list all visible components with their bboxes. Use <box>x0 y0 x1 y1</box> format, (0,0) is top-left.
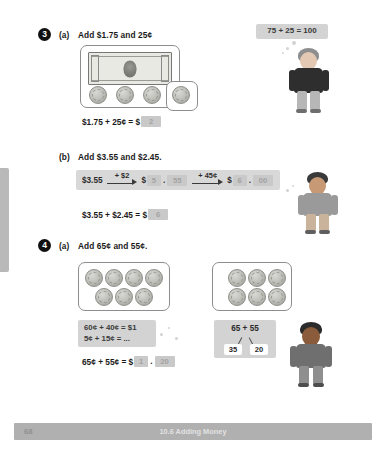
chain-step1-label: + $2 <box>115 171 130 180</box>
equation-4a-lhs: 65¢ + 55¢ = $ <box>82 357 133 367</box>
coin-left-5 <box>95 288 113 306</box>
hint-box-4a: 60¢ + 40¢ = $1 5¢ + 15¢ = ... <box>78 320 156 347</box>
footer-section-title: 10.6 Adding Money <box>14 423 372 440</box>
chain-start-value: $3.55 <box>82 176 103 185</box>
character-student-1 <box>286 48 332 114</box>
question-3a-prompt: Add $1.75 and 25¢ <box>78 30 152 40</box>
equation-3b-lhs: $3.55 + $2.45 = $ <box>82 210 147 220</box>
one-dollar-bill <box>88 52 172 85</box>
chain-mid-currency: $ <box>141 176 146 185</box>
part-label-4a: (a) <box>59 241 69 251</box>
coin-left-7 <box>135 288 153 306</box>
chain-end-currency: $ <box>227 176 232 185</box>
question-4a-equation: 65¢ + 55¢ = $ 1 . 20 <box>82 356 176 367</box>
answer-4a-separator: . <box>150 357 152 366</box>
question-3a-equation: $1.75 + 25¢ = $ 2 <box>82 116 162 127</box>
coin-quarter <box>89 86 107 104</box>
question-number-4: 4 <box>38 239 51 252</box>
hint-line-1: 60¢ + 40¢ = $1 <box>84 323 136 334</box>
character-student-3 <box>288 322 334 388</box>
coin-quarter-extra <box>172 86 190 104</box>
number-bond-part-left: 35 <box>224 344 242 355</box>
character-student-2 <box>296 172 340 234</box>
number-bond-4a: 65 + 55 35 20 <box>214 320 276 358</box>
coin-right-3 <box>268 269 286 287</box>
coin-right-2 <box>248 269 266 287</box>
worksheet-page: 3 (a) Add $1.75 and 25¢ $1.75 + 25¢ = $ … <box>0 0 386 458</box>
chain-arrow-1: + $2 <box>106 172 139 188</box>
answer-blank-4a-dollars[interactable]: 1 <box>134 356 148 367</box>
hint-box-4a-sparkles <box>160 325 186 347</box>
chain-end-dollars-blank[interactable]: 6 <box>233 175 247 186</box>
part-label-3b: (b) <box>59 152 70 162</box>
page-content: 3 (a) Add $1.75 and 25¢ $1.75 + 25¢ = $ … <box>0 0 386 458</box>
hint-bubble-3a: 75 + 25 = 100 <box>256 24 328 39</box>
coin-right-4 <box>228 288 246 306</box>
chain-end-cents-blank[interactable]: 00 <box>253 175 273 186</box>
question-3b-equation: $3.55 + $2.45 = $ 6 <box>82 209 169 220</box>
part-label-3a: (a) <box>59 30 69 40</box>
number-bond-total: 65 + 55 <box>214 324 276 333</box>
coin-left-6 <box>115 288 133 306</box>
arrow-chain-3b: $3.55 + $2 $ 5 . 55 + 45¢ $ 6 . 00 <box>76 170 280 190</box>
chain-mid-cents-blank[interactable]: 55 <box>167 175 187 186</box>
answer-blank-3a[interactable]: 2 <box>141 116 161 127</box>
coin-right-5 <box>248 288 266 306</box>
page-footer: 68 10.6 Adding Money <box>14 423 372 440</box>
chain-arrow-2: + 45¢ <box>191 172 224 188</box>
coin-left-2 <box>105 269 123 287</box>
chain-mid-dollars-blank[interactable]: 5 <box>147 175 161 186</box>
chain-step2-label: + 45¢ <box>198 171 217 180</box>
chain-mid-separator: . <box>163 176 165 185</box>
question-number-3: 3 <box>38 28 51 41</box>
coin-right-1 <box>228 269 246 287</box>
coin-left-1 <box>85 269 103 287</box>
coin-right-6 <box>268 288 286 306</box>
coin-quarter <box>116 86 134 104</box>
question-4a-prompt: Add 65¢ and 55¢. <box>78 241 147 251</box>
coin-left-3 <box>125 269 143 287</box>
coin-quarter <box>143 86 161 104</box>
chain-end-separator: . <box>249 176 251 185</box>
hint-line-2: 5¢ + 15¢ = ... <box>84 334 130 345</box>
number-bond-part-right: 20 <box>250 344 268 355</box>
coin-left-4 <box>145 269 163 287</box>
answer-blank-4a-cents[interactable]: 20 <box>155 356 175 367</box>
equation-3a-lhs: $1.75 + 25¢ = $ <box>82 117 140 127</box>
answer-blank-3b[interactable]: 6 <box>148 209 168 220</box>
question-3b-prompt: Add $3.55 and $2.45. <box>78 152 162 162</box>
